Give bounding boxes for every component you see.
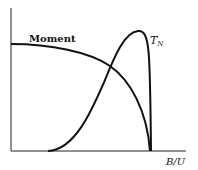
tn-label: TN xyxy=(150,34,164,48)
moment-curve xyxy=(11,44,150,151)
chart: Moment TN B/U xyxy=(0,0,198,170)
tn-label-sub: N xyxy=(156,40,164,48)
moment-label: Moment xyxy=(29,33,76,44)
x-axis-label: B/U xyxy=(165,156,186,167)
